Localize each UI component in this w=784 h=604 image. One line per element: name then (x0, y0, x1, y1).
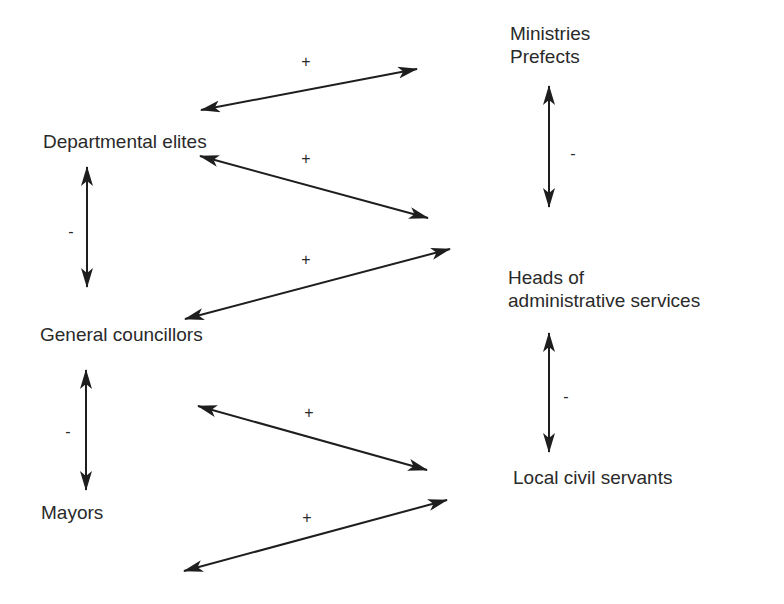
node-departmental-elites: Departmental elites (43, 130, 207, 153)
node-prefects-label: Prefects (510, 45, 590, 68)
sign-plus-elites-ministries: + (301, 54, 310, 70)
sign-plus-elites-heads: + (301, 151, 310, 167)
node-local-civil-servants: Local civil servants (513, 466, 672, 489)
node-general-councillors: General councillors (40, 323, 203, 346)
arrow-elites-ministries (201, 69, 417, 110)
node-heads-of-administrative-services: Heads of administrative services (508, 266, 700, 312)
node-heads-label-line2: administrative services (508, 289, 700, 312)
sign-minus-heads-civil-servants: - (563, 389, 568, 405)
node-ministries-prefects: Ministries Prefects (510, 22, 590, 68)
sign-plus-councillors-heads: + (301, 252, 310, 268)
sign-minus-ministries-heads: - (570, 146, 575, 162)
sign-minus-councillors-mayors: - (65, 424, 70, 440)
sign-plus-councillors-civil-servants: + (304, 405, 313, 421)
node-ministries-label: Ministries (510, 22, 590, 45)
arrow-elites-heads (200, 156, 428, 218)
sign-minus-elites-councillors: - (68, 224, 73, 240)
node-heads-label-line1: Heads of (508, 266, 700, 289)
sign-plus-mayors-civil-servants: + (302, 510, 311, 526)
arrow-mayors-civil-servants (184, 500, 447, 571)
node-mayors: Mayors (41, 501, 103, 524)
arrow-councillors-heads (185, 249, 450, 319)
